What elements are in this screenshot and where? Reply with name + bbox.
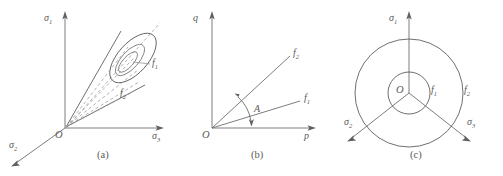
sigma-1-axis-label: σ1 xyxy=(389,13,397,26)
f1-leader-line xyxy=(133,62,150,64)
panel-c: σ1 σ2 σ3 O f1 f2 (c) xyxy=(334,0,503,176)
cone-end-cap-inner xyxy=(111,40,150,80)
sigma-2-axis-label: σ2 xyxy=(9,140,17,153)
sigma-1-axis-label: σ1 xyxy=(44,13,52,26)
sigma-2-axis-label: σ2 xyxy=(344,117,352,130)
panel-b-caption: (b) xyxy=(251,150,263,161)
p-axis xyxy=(212,125,316,130)
sigma-3-axis-label: σ3 xyxy=(467,117,475,130)
sigma-1-axis xyxy=(62,11,67,128)
origin-label-c: O xyxy=(396,85,404,96)
f2-line xyxy=(212,56,290,128)
f2-line-label-b: f2 xyxy=(293,48,299,61)
f2-circle-label-c: f2 xyxy=(464,85,470,98)
f1-surface-label-a: f1 xyxy=(152,58,158,71)
panel-a-caption: (a) xyxy=(97,150,109,161)
sigma-2-axis xyxy=(347,93,409,142)
hydrostatic-axis-dashed xyxy=(67,23,160,127)
panel-a-drawing xyxy=(0,0,176,176)
origin-label-a: O xyxy=(55,130,63,141)
q-axis-label: q xyxy=(193,13,198,23)
sigma-3-axis-label: σ3 xyxy=(152,131,160,144)
p-axis-label: p xyxy=(304,131,309,141)
sigma-1-axis xyxy=(406,11,411,93)
f1-circle-label-c: f1 xyxy=(431,85,437,98)
angle-label: A xyxy=(254,104,260,114)
sigma-3-axis xyxy=(409,93,471,142)
f1-line-label-b: f1 xyxy=(304,93,310,106)
figure-container: σ1 σ2 σ3 O f1 f2 (a) xyxy=(0,0,503,176)
origin-label-b: O xyxy=(202,130,210,141)
panel-a: σ1 σ2 σ3 O f1 f2 (a) xyxy=(0,0,176,176)
panel-b: q p O f1 f2 A (b) xyxy=(176,0,334,176)
panel-c-caption: (c) xyxy=(410,150,422,161)
sigma-3-axis xyxy=(65,125,164,130)
f2-surface-label-a: f2 xyxy=(120,88,126,101)
outer-cone-surface xyxy=(66,31,145,127)
q-axis xyxy=(209,11,214,128)
